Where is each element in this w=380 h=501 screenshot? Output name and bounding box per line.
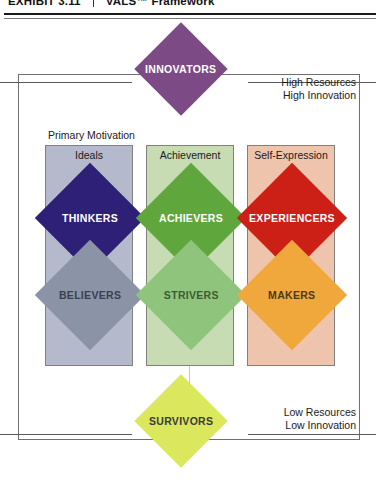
motivation-column-ideals: Ideals THINKERS BELIEVERS [45, 145, 133, 366]
exhibit-header: EXHIBIT 3.11 VALS™ Framework [0, 0, 380, 13]
segment-thinkers-label: THINKERS [62, 212, 118, 224]
note-low-resources: Low Resources Low Innovation [284, 406, 356, 432]
segment-makers-label: MAKERS [268, 289, 315, 301]
motivation-column-achievement: Achievement ACHIEVERS STRIVERS [146, 145, 234, 366]
exhibit-header-inner: EXHIBIT 3.11 VALS™ Framework [8, 0, 215, 7]
column-header-achievement: Achievement [147, 149, 233, 161]
segment-believers-label: BELIEVERS [59, 289, 121, 301]
connector-line-bottom-right [248, 434, 376, 435]
column-header-self-expression: Self-Expression [248, 149, 334, 161]
note-low-innovation-line2: Low Innovation [284, 419, 356, 432]
segment-believers[interactable]: BELIEVERS [35, 240, 145, 350]
connector-line-top-left [0, 82, 132, 83]
motivation-columns: Ideals THINKERS BELIEVERS Achievement AC… [45, 145, 335, 366]
exhibit-title: VALS™ Framework [106, 0, 215, 7]
segment-strivers-label: STRIVERS [164, 289, 219, 301]
connector-line-bottom-left [0, 434, 132, 435]
segment-experiencers-label: EXPERIENCERS [249, 212, 335, 224]
segment-makers[interactable]: MAKERS [237, 240, 347, 350]
primary-motivation-label: Primary Motivation [48, 129, 135, 141]
segment-survivors-label: SURVIVORS [149, 415, 213, 427]
note-high-innovation-line2: High Innovation [281, 89, 356, 102]
exhibit-number: EXHIBIT 3.11 [8, 0, 93, 7]
column-header-ideals: Ideals [46, 149, 132, 161]
segment-innovators-label: INNOVATORS [145, 63, 216, 75]
motivation-column-self-expression: Self-Expression EXPERIENCERS MAKERS [247, 145, 335, 366]
segment-strivers[interactable]: STRIVERS [136, 240, 246, 350]
note-high-resources: High Resources High Innovation [281, 76, 356, 102]
segment-achievers-label: ACHIEVERS [159, 212, 223, 224]
header-divider [93, 0, 94, 7]
note-high-resources-line1: High Resources [281, 76, 356, 89]
note-low-resources-line1: Low Resources [284, 406, 356, 419]
header-rule [4, 13, 376, 19]
